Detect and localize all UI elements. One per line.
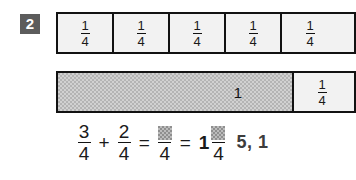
fraction-one-quarter: 1 4 bbox=[318, 78, 327, 107]
fraction-numerator: 1 bbox=[81, 19, 90, 33]
equation-mixed-fraction: 4 bbox=[211, 122, 225, 163]
plus-operator: + bbox=[99, 132, 110, 154]
answer-placeholder-numerator[interactable] bbox=[158, 122, 172, 142]
fraction-denominator: 4 bbox=[193, 33, 202, 48]
fraction-numerator: 2 bbox=[118, 122, 131, 142]
equation-second-fraction: 2 4 bbox=[118, 122, 131, 163]
equation-first-fraction: 3 4 bbox=[78, 122, 91, 163]
fraction-denominator: 4 bbox=[212, 142, 225, 163]
fraction-cell: 1 4 bbox=[58, 14, 114, 52]
fraction-numerator: 1 bbox=[249, 19, 258, 33]
fraction-denominator: 4 bbox=[118, 142, 131, 163]
equation-line: 3 4 + 2 4 = 4 = 1 4 5, 1 bbox=[0, 122, 344, 163]
equals-operator: = bbox=[139, 132, 150, 154]
fraction-denominator: 4 bbox=[306, 33, 315, 48]
fraction-cell: 1 4 bbox=[114, 14, 170, 52]
whole-label: 1 bbox=[234, 84, 242, 101]
shaded-whole-segment: 1 bbox=[58, 73, 294, 111]
exercise-number-badge: 2 bbox=[20, 14, 40, 34]
fraction-denominator: 4 bbox=[137, 33, 146, 48]
fraction-one-quarter: 1 4 bbox=[193, 19, 202, 48]
fraction-numerator: 1 bbox=[318, 78, 327, 92]
fraction-one-quarter: 1 4 bbox=[249, 19, 258, 48]
fraction-denominator: 4 bbox=[318, 92, 327, 107]
mixed-number-whole: 1 bbox=[199, 132, 210, 154]
fraction-cell: 1 4 bbox=[226, 14, 282, 52]
fraction-one-quarter: 1 4 bbox=[81, 19, 90, 48]
answer-box-icon[interactable] bbox=[211, 126, 225, 140]
fraction-numerator: 1 bbox=[306, 19, 315, 33]
equals-operator-2: = bbox=[180, 132, 191, 154]
fraction-cell: 1 4 bbox=[170, 14, 226, 52]
fraction-denominator: 4 bbox=[158, 142, 171, 163]
fraction-numerator: 1 bbox=[193, 19, 202, 33]
fraction-one-quarter: 1 4 bbox=[306, 19, 315, 48]
fraction-strip-sum: 1 1 4 bbox=[56, 71, 356, 113]
fraction-denominator: 4 bbox=[249, 33, 258, 48]
fraction-cell-remainder: 1 4 bbox=[294, 73, 350, 111]
answer-placeholder-numerator[interactable] bbox=[211, 122, 225, 142]
fraction-cell: 1 4 bbox=[282, 14, 338, 52]
equation-improper-fraction: 4 bbox=[158, 122, 172, 163]
fraction-numerator: 1 bbox=[137, 19, 146, 33]
fraction-denominator: 4 bbox=[78, 142, 91, 163]
answer-box-icon[interactable] bbox=[158, 126, 172, 140]
fraction-strip-unit: 1 4 1 4 1 4 1 4 1 4 bbox=[56, 12, 356, 54]
fraction-one-quarter: 1 4 bbox=[137, 19, 146, 48]
fraction-numerator: 3 bbox=[78, 122, 91, 142]
fraction-denominator: 4 bbox=[81, 33, 90, 48]
answer-annotation: 5, 1 bbox=[236, 132, 268, 153]
